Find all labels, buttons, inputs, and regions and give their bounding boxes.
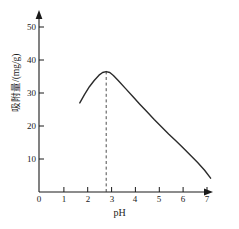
adsorption-curve xyxy=(80,72,211,179)
x-tick-label-2: 2 xyxy=(81,195,95,204)
y-axis-title: 吸附量/(mg/g) xyxy=(12,28,22,138)
x-tick-label-5: 5 xyxy=(152,195,166,204)
adsorption-ph-chart: 50 40 30 20 10 0 1 2 3 4 5 6 7 pH 吸附量/(m… xyxy=(0,0,239,229)
x-tick-label-6: 6 xyxy=(176,195,190,204)
x-tick-label-3: 3 xyxy=(105,195,119,204)
x-tick-label-1: 1 xyxy=(57,195,71,204)
y-tick-label-10: 10 xyxy=(6,155,36,164)
y-axis-arrow-icon xyxy=(36,10,43,19)
x-tick-label-4: 4 xyxy=(128,195,142,204)
x-axis-title: pH xyxy=(0,208,239,218)
x-tick-label-0: 0 xyxy=(32,195,46,204)
y-axis-ticks xyxy=(39,27,44,159)
x-axis-ticks xyxy=(64,187,207,192)
x-tick-label-7: 7 xyxy=(200,195,214,204)
